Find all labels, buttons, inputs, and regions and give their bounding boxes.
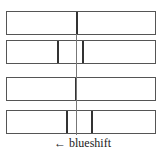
spectral-line (91, 111, 93, 133)
spectral-line (66, 111, 68, 133)
reference-line (76, 34, 77, 135)
spectrum-3 (6, 77, 156, 101)
spectrum-2 (6, 40, 156, 64)
spectral-line (76, 12, 78, 34)
spectral-line (82, 41, 84, 63)
spectrum-1 (6, 11, 156, 35)
blueshift-label: ← blueshift (54, 136, 111, 151)
spectrum-4 (6, 110, 156, 134)
spectral-line (57, 41, 59, 63)
